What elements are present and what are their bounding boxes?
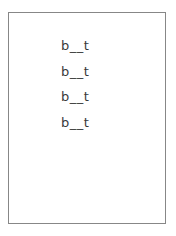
worksheet-line-list: b__t b__t b__t b__t <box>61 33 161 135</box>
worksheet-line: b__t <box>61 110 161 136</box>
document-page: b__t b__t b__t b__t <box>8 12 166 224</box>
worksheet-line: b__t <box>61 84 161 110</box>
worksheet-line: b__t <box>61 33 161 59</box>
worksheet-line: b__t <box>61 59 161 85</box>
